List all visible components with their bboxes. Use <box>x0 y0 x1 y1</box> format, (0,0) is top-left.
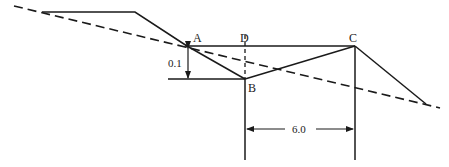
dashed-reference-line <box>14 6 440 108</box>
point-label-a: A <box>193 31 202 45</box>
line-a-b <box>187 46 245 79</box>
line-c-slope <box>355 46 426 104</box>
diagram-canvas: 0.1 6.0 A B C D <box>0 0 449 167</box>
dimension-label-0-1: 0.1 <box>168 57 182 69</box>
point-label-d: D <box>240 31 249 45</box>
point-label-c: C <box>349 31 357 45</box>
line-b-c <box>245 46 355 79</box>
point-a-marker <box>185 44 189 48</box>
point-label-b: B <box>248 81 256 95</box>
dimension-label-6-0: 6.0 <box>292 123 306 135</box>
